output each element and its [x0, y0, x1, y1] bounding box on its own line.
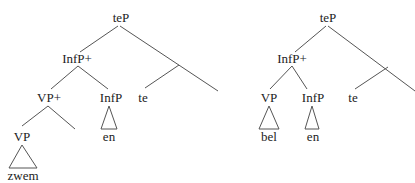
edge — [145, 65, 179, 88]
edge — [292, 66, 307, 89]
triangle-icon — [9, 145, 37, 168]
edge — [295, 26, 326, 52]
edge — [120, 26, 218, 91]
edge — [22, 106, 48, 126]
leaf-en: en — [307, 129, 320, 144]
edge — [78, 66, 108, 89]
edge — [328, 26, 415, 91]
node-infp: InfP — [302, 90, 324, 105]
node-infp-plus: InfP+ — [277, 51, 307, 66]
left-tree: teP InfP+ te VP+ InfP en VP zwem — [7, 10, 218, 183]
leaf-zwem: zwem — [7, 168, 38, 183]
edge — [80, 26, 118, 52]
edge — [48, 106, 75, 129]
right-tree: teP InfP+ VP bel InfP en te — [259, 10, 415, 144]
node-te: te — [138, 90, 148, 105]
node-infp-plus: InfP+ — [62, 51, 92, 66]
triangle-icon — [259, 106, 279, 129]
edge — [355, 67, 388, 89]
node-vp: VP — [261, 90, 278, 105]
node-vp: VP — [14, 129, 31, 144]
leaf-bel: bel — [261, 129, 277, 144]
node-teP: teP — [320, 10, 337, 25]
edge — [51, 66, 78, 89]
node-teP: teP — [113, 10, 130, 25]
leaf-en: en — [103, 129, 116, 144]
node-te: te — [348, 90, 358, 105]
node-infp: InfP — [100, 90, 122, 105]
node-vp-plus: VP+ — [37, 90, 61, 105]
triangle-icon — [101, 106, 117, 129]
edge — [270, 66, 292, 89]
triangle-icon — [305, 106, 319, 129]
